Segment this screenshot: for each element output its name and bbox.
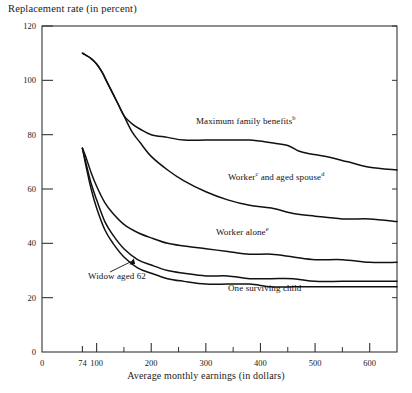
series-curve-0 [82, 53, 397, 170]
x-axis-title: Average monthly earnings (in dollars) [0, 370, 412, 381]
series-label-widow-aged-62: Widow aged 62 [88, 271, 146, 281]
x-tick-label-300: 300 [191, 358, 221, 368]
x-tick-label-200: 200 [136, 358, 166, 368]
x-tick-label-0: 0 [27, 358, 57, 368]
series-label-maximum-family-benefits: Maximum family benefitsb [196, 116, 296, 126]
y-tick-label-100: 100 [8, 75, 36, 85]
x-tick-label-500: 500 [300, 358, 330, 368]
y-tick-label-80: 80 [8, 130, 36, 140]
x-tick-label-600: 600 [355, 358, 385, 368]
series-curve-1 [82, 53, 397, 221]
series-curve-4 [82, 148, 397, 287]
widow-leader-arrowhead [130, 258, 136, 264]
series-label-worker-and-aged-spouse: Workerc and aged spoused [228, 172, 324, 182]
plot-frame [42, 26, 397, 352]
y-tick-label-20: 20 [8, 293, 36, 303]
series-label-worker-alone: Worker alonee [216, 227, 269, 237]
series-label-one-surviving-child: One surviving child [228, 283, 301, 293]
chart-figure: Replacement rate (in percent) Average mo… [0, 0, 412, 393]
chart-plot-area [0, 0, 412, 393]
y-tick-label-120: 120 [8, 21, 36, 31]
y-tick-label-0: 0 [8, 347, 36, 357]
x-tick-label-100: 100 [82, 358, 112, 368]
y-tick-label-60: 60 [8, 184, 36, 194]
series-curve-2 [82, 148, 397, 262]
y-tick-label-40: 40 [8, 238, 36, 248]
x-tick-label-400: 400 [245, 358, 275, 368]
